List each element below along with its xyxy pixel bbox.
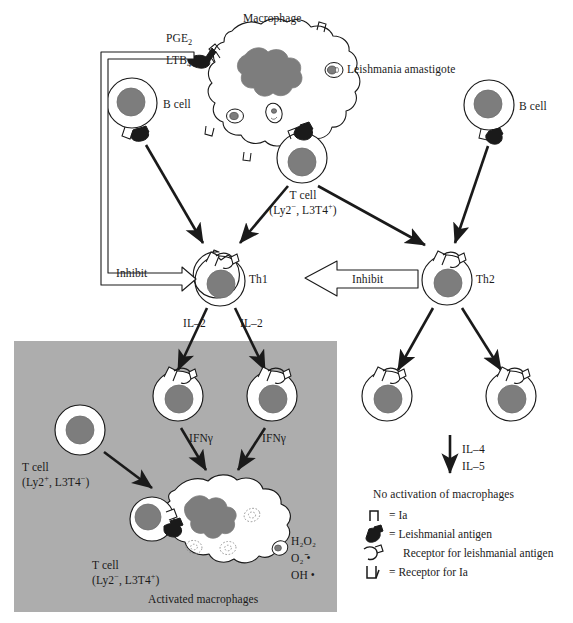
legend-item-ia-receptor: = Receptor for Ia	[389, 566, 468, 578]
legend-label-ia-receptor: Receptor for Ia	[398, 566, 468, 578]
legend-item-antigen-receptor: Receptor for leishmanial antigen	[403, 547, 553, 559]
antigen-receptor-icon	[364, 545, 383, 560]
legend-label-antigen-receptor: Receptor for leishmanial antigen	[403, 547, 553, 559]
ia-glyph-icon	[370, 511, 378, 521]
leishmanial-antigen-icon	[366, 525, 383, 542]
legend-item-ia: = Ia	[389, 509, 407, 521]
diagram-canvas: Macrophage PGE2 LTB4 Leishmania amastigo…	[0, 0, 573, 623]
ia-receptor-icon	[367, 566, 379, 578]
legend-eq-1: =	[389, 528, 396, 540]
legend-eq-0: =	[389, 509, 396, 521]
legend-label-ia: Ia	[398, 509, 407, 521]
legend-eq-3: =	[389, 566, 396, 578]
legend-label-antigen: Leishmanial antigen	[398, 528, 492, 540]
legend-item-antigen: = Leishmanial antigen	[389, 528, 492, 540]
